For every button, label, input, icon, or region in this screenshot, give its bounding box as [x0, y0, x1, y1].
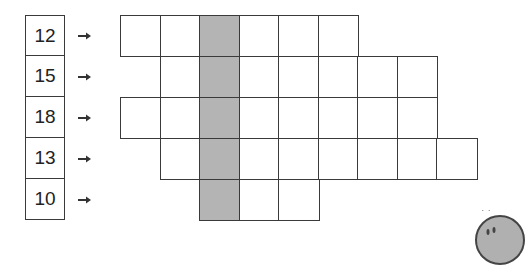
grid-cell	[397, 56, 438, 98]
grid-cell	[436, 138, 478, 180]
grid-cell-shaded	[199, 97, 241, 139]
grid-cell	[357, 138, 399, 180]
grid-cell	[318, 56, 359, 98]
right-arrow-icon	[78, 154, 92, 164]
grid-cell	[160, 97, 201, 139]
right-arrow-icon	[78, 31, 92, 41]
grid-cell	[318, 15, 359, 57]
grid-cell	[397, 138, 438, 180]
grid-cell	[357, 97, 399, 139]
row-number-box: 15	[25, 56, 65, 97]
grid-cell-shaded	[199, 56, 241, 98]
character-face-icon	[470, 210, 529, 269]
row-number-box: 10	[25, 179, 65, 220]
right-arrow-icon	[78, 72, 92, 82]
grid-cell	[318, 138, 359, 180]
grid-cell	[278, 138, 320, 180]
grid-cell	[278, 97, 320, 139]
grid-cell	[278, 179, 320, 221]
grid-cell	[239, 138, 280, 180]
row-number-box: 12	[25, 15, 65, 56]
grid-cell	[120, 15, 162, 57]
grid-cell-shaded	[199, 138, 241, 180]
grid-cell-shaded	[199, 15, 241, 57]
right-arrow-icon	[78, 195, 92, 205]
grid-cell	[397, 97, 438, 139]
right-arrow-icon	[78, 113, 92, 123]
grid-cell-shaded	[199, 179, 241, 221]
grid-cell	[278, 56, 320, 98]
grid-cell	[120, 97, 162, 139]
grid-cell	[160, 138, 201, 180]
grid-cell	[318, 97, 359, 139]
grid-cell	[239, 56, 280, 98]
row-number-box: 13	[25, 138, 65, 179]
grid-cell	[357, 56, 399, 98]
grid-cell	[239, 179, 280, 221]
grid-cell	[239, 97, 280, 139]
grid-cell	[278, 15, 320, 57]
grid-cell	[160, 15, 201, 57]
grid-cell	[239, 15, 280, 57]
row-number-box: 18	[25, 97, 65, 138]
grid-cell	[160, 56, 201, 98]
